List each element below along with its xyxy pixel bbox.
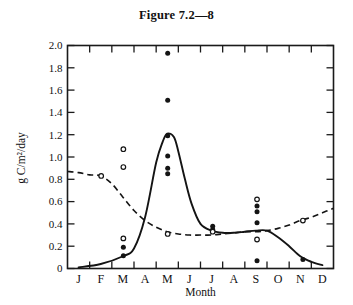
y-tick-label: 1.0 — [49, 151, 63, 163]
x-tick-label: M — [162, 272, 173, 286]
series-line-dashed-curve — [68, 172, 334, 236]
y-axis-tick-labels: 00.20.40.60.81.01.21.41.61.82.0 — [49, 39, 63, 274]
data-point-open — [165, 232, 170, 237]
data-point-filled — [165, 153, 170, 158]
chart-canvas: 00.20.40.60.81.01.21.41.61.82.0 JFMAMJJA… — [0, 0, 353, 305]
series-line-solid-curve — [79, 133, 323, 267]
y-tick-label: 0.8 — [49, 173, 63, 185]
x-tick-label: S — [253, 272, 260, 286]
chart-scatter-group — [99, 51, 306, 263]
data-point-filled — [165, 166, 170, 171]
y-tick-label: 1.8 — [49, 62, 63, 74]
data-point-filled — [121, 245, 126, 250]
y-axis-title: g C/m²/day — [15, 132, 28, 184]
data-point-filled — [121, 253, 126, 258]
y-tick-label: 2.0 — [49, 39, 63, 51]
y-tick-label: 0 — [57, 262, 63, 274]
axis-title-group: Monthg C/m²/day — [15, 132, 216, 298]
y-tick-label: 1.2 — [49, 129, 63, 141]
data-point-filled — [300, 257, 305, 262]
data-point-open — [255, 197, 260, 202]
data-point-filled — [255, 220, 260, 225]
y-tick-label: 0.4 — [49, 218, 63, 230]
data-point-filled — [255, 209, 260, 214]
data-point-open — [99, 174, 104, 179]
data-point-filled — [255, 204, 260, 209]
figure-container: Figure 7.2—8 00.20.40.60.81.01.21.41.61.… — [0, 0, 353, 305]
x-axis-title: Month — [185, 286, 216, 298]
data-point-open — [255, 237, 260, 242]
data-point-open — [121, 236, 126, 241]
data-point-filled — [165, 51, 170, 56]
data-point-open — [301, 218, 306, 223]
x-tick-label: J — [209, 272, 214, 286]
data-point-open — [121, 165, 126, 170]
x-tick-label: M — [118, 272, 129, 286]
data-point-filled — [165, 133, 170, 138]
chart-series-group — [68, 133, 334, 267]
data-point-open — [210, 229, 215, 234]
x-tick-label: D — [318, 272, 327, 286]
data-point-open — [121, 147, 126, 152]
y-tick-label: 1.6 — [49, 84, 63, 96]
x-axis-tick-labels: JFMAMJJASOND — [76, 272, 327, 286]
x-tick-label: J — [76, 272, 81, 286]
y-tick-label: 0.6 — [49, 195, 63, 207]
x-tick-label: J — [187, 272, 192, 286]
y-tick-label: 1.4 — [49, 106, 63, 118]
y-tick-label: 0.2 — [49, 240, 63, 252]
x-tick-label: O — [274, 272, 283, 286]
x-tick-label: A — [229, 272, 238, 286]
x-tick-label: F — [97, 272, 104, 286]
data-point-filled — [165, 98, 170, 103]
data-point-filled — [165, 171, 170, 176]
data-point-filled — [255, 258, 260, 263]
x-tick-label: A — [141, 272, 150, 286]
x-tick-label: N — [296, 272, 305, 286]
